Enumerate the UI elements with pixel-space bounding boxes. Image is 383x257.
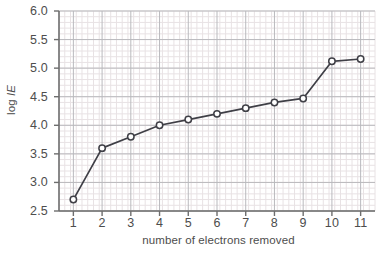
data-point-marker: [329, 58, 335, 64]
data-point-marker: [357, 56, 363, 62]
data-point-marker: [128, 134, 134, 140]
plot-area: [0, 0, 383, 257]
data-point-marker: [300, 95, 306, 101]
data-point-marker: [214, 111, 220, 117]
line-chart: log IE 2.53.03.54.04.55.05.56.0 12345678…: [0, 0, 383, 257]
data-point-marker: [99, 145, 105, 151]
data-point-marker: [185, 116, 191, 122]
data-point-marker: [271, 99, 277, 105]
data-point-marker: [156, 122, 162, 128]
data-point-marker: [243, 105, 249, 111]
data-point-marker: [70, 196, 76, 202]
